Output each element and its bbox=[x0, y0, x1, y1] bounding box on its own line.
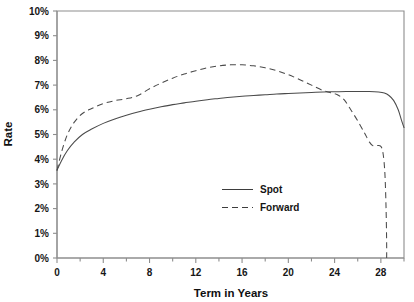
legend-label-spot: Spot bbox=[260, 184, 283, 195]
y-tick-label: 9% bbox=[35, 30, 50, 41]
y-tick-label: 4% bbox=[35, 154, 50, 165]
series-line-forward bbox=[57, 65, 387, 258]
data-series-layer bbox=[57, 65, 404, 258]
y-tick-label: 5% bbox=[35, 129, 50, 140]
y-tick-label: 2% bbox=[35, 203, 50, 214]
y-axis-title: Rate bbox=[2, 122, 14, 147]
y-tick-label: 10% bbox=[29, 6, 49, 17]
y-tick-label: 8% bbox=[35, 55, 50, 66]
x-tick-label: 8 bbox=[147, 267, 153, 278]
y-tick-label: 1% bbox=[35, 228, 50, 239]
x-axis-ticks: 0481216202428 bbox=[54, 258, 387, 278]
legend-label-forward: Forward bbox=[260, 202, 299, 213]
x-tick-label: 12 bbox=[190, 267, 202, 278]
plot-frame bbox=[57, 11, 404, 258]
chart-container: 0%1%2%3%4%5%6%7%8%9%10% 0481216202428 Sp… bbox=[0, 0, 414, 302]
x-tick-label: 20 bbox=[283, 267, 295, 278]
y-tick-label: 7% bbox=[35, 80, 50, 91]
x-tick-label: 4 bbox=[100, 267, 106, 278]
chart-legend: Spot Forward bbox=[222, 184, 299, 213]
x-tick-label: 24 bbox=[329, 267, 341, 278]
rate-curve-chart: 0%1%2%3%4%5%6%7%8%9%10% 0481216202428 Sp… bbox=[0, 0, 414, 302]
y-tick-label: 6% bbox=[35, 104, 50, 115]
y-axis-ticks: 0%1%2%3%4%5%6%7%8%9%10% bbox=[29, 6, 57, 264]
series-line-spot bbox=[57, 91, 404, 170]
y-tick-label: 3% bbox=[35, 179, 50, 190]
x-tick-label: 28 bbox=[375, 267, 387, 278]
x-tick-label: 0 bbox=[54, 267, 60, 278]
x-axis-title: Term in Years bbox=[194, 287, 268, 299]
x-tick-label: 16 bbox=[237, 267, 249, 278]
y-tick-label: 0% bbox=[35, 253, 50, 264]
